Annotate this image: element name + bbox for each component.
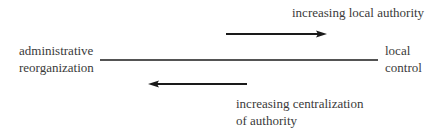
right-arrow-icon	[226, 31, 327, 38]
left-arrow-icon	[148, 81, 247, 88]
bottom-label-line1: increasing centralization	[236, 95, 363, 112]
continuum-diagram: increasing local authority administrativ…	[0, 0, 442, 134]
left-label-line2: reorganization	[19, 59, 94, 76]
left-label-line1: administrative	[19, 42, 94, 59]
top-label-text: increasing local authority	[292, 4, 424, 21]
increasing-centralization-label: increasing centralization of authority	[236, 95, 363, 129]
bottom-label-line2: of authority	[236, 112, 363, 129]
local-control-label: local control	[385, 42, 422, 76]
administrative-reorganization-label: administrative reorganization	[19, 42, 94, 76]
right-label-line2: control	[385, 59, 422, 76]
increasing-local-authority-label: increasing local authority	[292, 4, 424, 21]
right-label-line1: local	[385, 42, 422, 59]
